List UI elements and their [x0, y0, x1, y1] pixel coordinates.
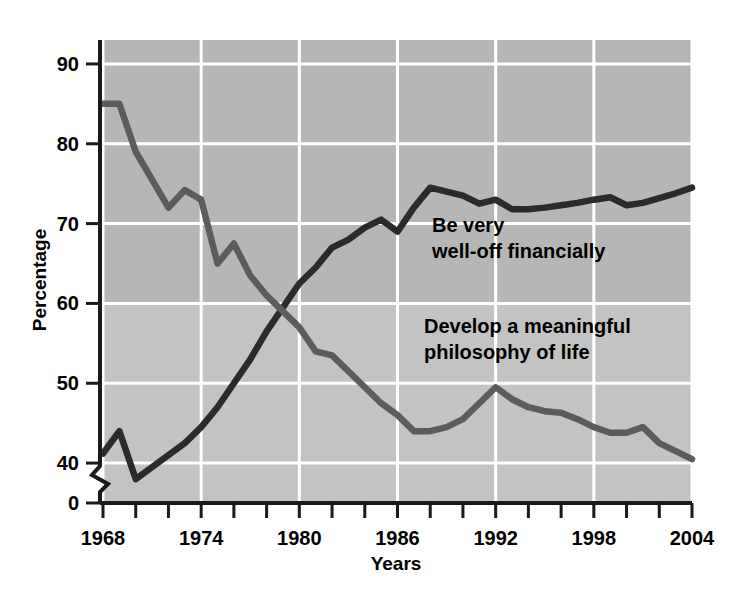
x-tick-label: 2004	[670, 527, 715, 549]
y-axis-tick-labels: 4050607080900	[57, 53, 79, 514]
series-label-financial-line1: Be very	[432, 214, 505, 236]
series-label-philosophy-line1: Develop a meaningful	[424, 315, 631, 337]
x-tick-label: 1968	[81, 527, 126, 549]
y-axis-title: Percentage	[29, 229, 50, 331]
y-tick-label: 50	[57, 372, 79, 394]
y-axis-ticks	[86, 64, 100, 503]
x-tick-label: 1974	[179, 527, 224, 549]
y-tick-label: 0	[68, 492, 79, 514]
x-axis-tick-labels: 1968197419801986199219982004	[81, 527, 715, 549]
series-label-financial-line2: well-off financially	[431, 240, 606, 262]
line-chart-svg: 4050607080900 19681974198019861992199820…	[0, 0, 740, 594]
x-tick-label: 1992	[473, 527, 518, 549]
chart-figure: 4050607080900 19681974198019861992199820…	[0, 0, 740, 594]
series-label-philosophy-line2: philosophy of life	[424, 341, 590, 363]
x-tick-label: 1998	[572, 527, 617, 549]
y-tick-label: 60	[57, 292, 79, 314]
y-tick-label: 90	[57, 53, 79, 75]
y-tick-label: 80	[57, 133, 79, 155]
x-axis-ticks	[103, 503, 692, 518]
y-tick-label: 40	[57, 452, 79, 474]
x-axis-title: Years	[371, 553, 422, 574]
x-tick-label: 1980	[277, 527, 322, 549]
x-tick-label: 1986	[375, 527, 420, 549]
y-tick-label: 70	[57, 213, 79, 235]
